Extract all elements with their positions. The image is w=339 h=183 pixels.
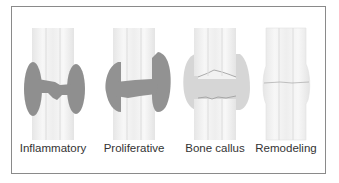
fracture-healing-diagram [0,0,339,183]
bone-shaft-upper-icon [194,28,236,76]
label-bone-callus: Bone callus [175,142,255,154]
stage-remodeling-illustration [263,28,310,140]
remodeled-bone-icon [263,28,310,140]
label-proliferative: Proliferative [94,142,174,154]
stage-bone-callus-illustration [183,28,250,140]
stage-proliferative-illustration [106,28,171,140]
stage-inflammatory-illustration [24,28,85,140]
label-remodeling: Remodeling [246,142,326,154]
label-inflammatory: Inflammatory [13,142,93,154]
bone-shaft-lower-icon [194,99,236,140]
